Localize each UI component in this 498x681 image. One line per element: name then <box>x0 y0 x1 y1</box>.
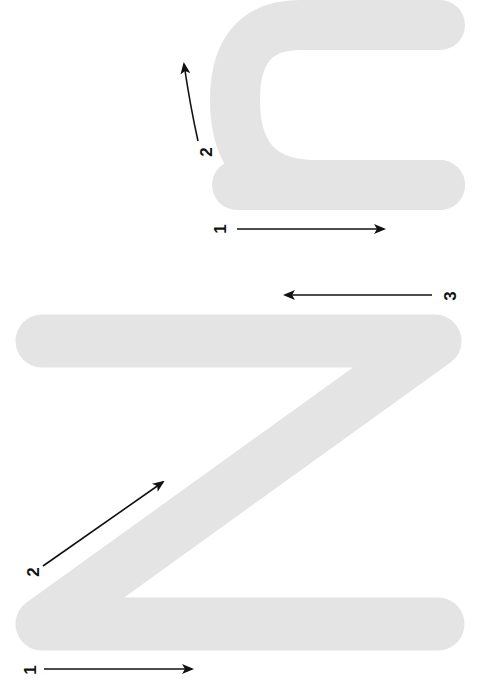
uppercase-n-letter <box>42 341 438 624</box>
N-stroke-1-label: 1 <box>21 665 40 674</box>
n-stroke-2-label: 2 <box>197 147 216 156</box>
n-stroke-1-label: 1 <box>211 224 230 233</box>
n-stroke-2-arrow <box>184 64 198 141</box>
stroke-order-diagram: 1 2 3 2 1 <box>0 0 498 681</box>
N-stroke-3-label: 3 <box>441 291 460 300</box>
N-stroke-2-label: 2 <box>24 567 43 576</box>
lowercase-n-letter <box>235 25 440 185</box>
